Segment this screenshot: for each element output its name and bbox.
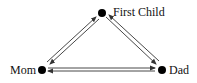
node-mom: [38, 66, 46, 74]
label-dad: Dad: [169, 64, 189, 76]
edge-mom-dad: [48, 68, 155, 71]
label-mom: Mom: [10, 64, 36, 76]
edge-first-child-dad: [106, 15, 159, 64]
label-first-child: First Child: [113, 6, 165, 18]
node-first-child: [98, 9, 106, 17]
node-dad: [158, 66, 166, 74]
edge-mom-first-child: [47, 17, 99, 64]
